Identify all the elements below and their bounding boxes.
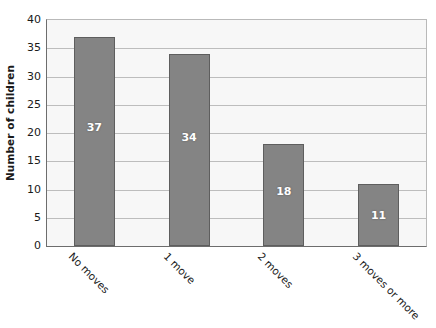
x-tick-label: 1 move <box>161 250 197 286</box>
y-tick-label: 10 <box>27 182 41 195</box>
y-tick-label: 30 <box>27 69 41 82</box>
x-axis-tick-labels: No moves1 move2 moves3 moves or more <box>46 246 425 328</box>
y-axis-title-text: Number of children <box>4 65 16 181</box>
y-tick-label: 0 <box>34 239 41 252</box>
y-axis-title: Number of children <box>0 0 20 246</box>
bars-layer: 37341811 <box>47 20 426 246</box>
bar-chart-figure: Number of children 0510152025303540 3734… <box>0 0 436 328</box>
y-axis-tick-labels: 0510152025303540 <box>20 0 44 260</box>
y-tick-label: 35 <box>27 41 41 54</box>
y-tick-label: 20 <box>27 126 41 139</box>
y-tick-label: 40 <box>27 13 41 26</box>
y-tick-label: 5 <box>34 210 41 223</box>
x-tick-label: No moves <box>66 250 112 296</box>
x-tick-label: 3 moves or more <box>351 250 423 322</box>
y-tick-label: 25 <box>27 97 41 110</box>
bar-value-label: 37 <box>74 121 115 134</box>
x-tick-label: 2 moves <box>256 250 296 290</box>
bar <box>74 37 115 246</box>
y-tick-label: 15 <box>27 154 41 167</box>
bar <box>169 54 210 246</box>
bar-value-label: 11 <box>358 209 399 222</box>
bar-value-label: 34 <box>169 131 210 144</box>
bar-value-label: 18 <box>263 185 304 198</box>
plot-area: 37341811 <box>46 19 427 247</box>
